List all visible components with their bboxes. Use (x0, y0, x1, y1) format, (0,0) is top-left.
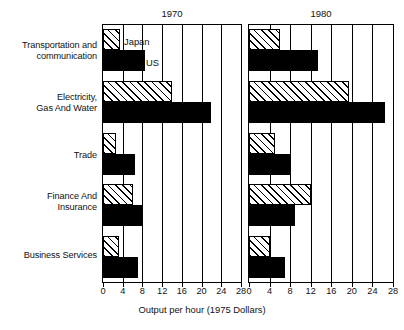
category-label-business-services: Business Services (24, 250, 97, 261)
tick-label-20: 20 (347, 286, 357, 296)
tick-label-24: 24 (367, 286, 377, 296)
tick-label-12: 12 (157, 286, 167, 296)
bar-japan (249, 184, 311, 205)
tick-label-4: 4 (267, 286, 272, 296)
tick-label-8: 8 (140, 286, 145, 296)
bar-japan (249, 81, 349, 102)
gridline-16 (331, 25, 332, 282)
panel-1980: 1980 0481216202428 (248, 24, 394, 283)
legend-label-us: US (146, 57, 159, 68)
bar-japan (103, 81, 172, 102)
tick-label-28: 28 (388, 286, 398, 296)
bar-us (103, 50, 145, 71)
bar-japan (103, 236, 119, 257)
gridline-12 (162, 25, 163, 282)
bar-japan (103, 133, 116, 154)
category-label-finance: Finance And Insurance (47, 191, 97, 212)
category-axis-labels: Transportation and communication Electri… (0, 24, 101, 283)
bar-japan (103, 29, 120, 50)
tick-label-0: 0 (246, 286, 251, 296)
tick-label-16: 16 (326, 286, 336, 296)
bar-japan (249, 29, 280, 50)
tick-label-8: 8 (288, 286, 293, 296)
plot-area-1970 (102, 24, 242, 283)
bar-us (103, 102, 211, 123)
tick-label-12: 12 (306, 286, 316, 296)
tick-label-16: 16 (177, 286, 187, 296)
tick-label-24: 24 (216, 286, 226, 296)
bar-japan (249, 236, 270, 257)
tick-label-4: 4 (120, 286, 125, 296)
panel-1970: 1970 0481216202428 (102, 24, 242, 283)
gridline-20 (352, 25, 353, 282)
gridline-16 (182, 25, 183, 282)
bar-japan (103, 184, 133, 205)
plot-area-1980 (248, 24, 394, 283)
x-axis-title: Output per hour (1975 Dollars) (0, 304, 404, 315)
bar-us (249, 205, 295, 226)
gridline-20 (202, 25, 203, 282)
bar-us (249, 257, 285, 278)
tick-label-20: 20 (196, 286, 206, 296)
bar-us (103, 257, 138, 278)
category-label-transportation: Transportation and communication (22, 40, 97, 61)
category-label-trade: Trade (74, 150, 97, 161)
panel-title-1980: 1980 (248, 8, 394, 19)
bar-us (249, 102, 385, 123)
tick-label-0: 0 (100, 286, 105, 296)
gridline-24 (372, 25, 373, 282)
panel-title-1970: 1970 (102, 8, 242, 19)
bar-us (249, 50, 318, 71)
bar-chart-figure: Transportation and communication Electri… (0, 0, 404, 330)
gridline-24 (221, 25, 222, 282)
bar-japan (249, 133, 275, 154)
tick-labels-1970: 0481216202428 (102, 286, 242, 300)
tick-label-28: 28 (236, 286, 246, 296)
bar-us (103, 205, 142, 226)
bar-us (249, 154, 290, 175)
tick-labels-1980: 0481216202428 (248, 286, 394, 300)
category-label-electricity: Electricity, Gas And Water (36, 92, 97, 113)
bar-us (103, 154, 135, 175)
legend-label-japan: Japan (124, 36, 150, 47)
